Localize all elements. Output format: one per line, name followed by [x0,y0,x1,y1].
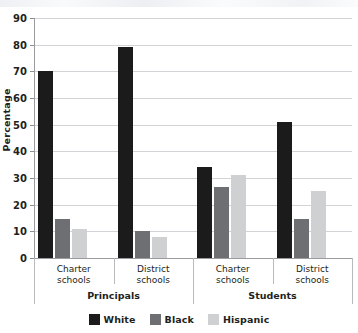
bar [38,71,53,258]
gridline [34,205,352,206]
gridline [34,178,352,179]
gridline [34,98,352,99]
bar [55,219,70,258]
group-separator [352,258,353,304]
gridline [34,18,352,19]
legend-swatch [89,314,100,325]
x-group-label: Students [193,290,352,301]
x-tick-label: District schools [273,264,353,285]
x-tick-label: Charter schools [34,264,114,285]
legend-item: White [89,314,136,325]
y-tick-label: 10 [13,226,27,237]
gridline [34,45,352,46]
bar [277,122,292,258]
y-tick-label: 60 [13,93,27,104]
legend-label: Black [165,314,194,325]
chart-legend: WhiteBlackHispanic [0,314,358,325]
bar [118,47,133,258]
legend-label: Hispanic [223,314,270,325]
bar [214,187,229,258]
y-tick-label: 0 [20,253,27,264]
bar [152,237,167,258]
bar [231,175,246,258]
y-tick-label: 70 [13,66,27,77]
y-tick-label: 40 [13,146,27,157]
x-tick-label: Charter schools [193,264,273,285]
gridline [34,151,352,152]
y-tick-label: 30 [13,173,27,184]
bar [311,191,326,258]
cropped-header-artifact [0,0,358,7]
bar [135,231,150,258]
bar [72,229,87,258]
x-tick-label: District schools [114,264,194,285]
legend-item: Black [150,314,194,325]
gridline [34,71,352,72]
y-tick-label: 80 [13,39,27,50]
gridline [34,125,352,126]
chart-plot-area: 0102030405060708090 [34,18,352,258]
y-axis-title: Percentage [1,0,13,240]
bar [197,167,212,258]
bar [294,219,309,258]
y-axis-line [34,18,35,258]
y-tick-label: 20 [13,199,27,210]
x-group-label: Principals [34,290,193,301]
y-tick-label: 50 [13,119,27,130]
legend-label: White [104,314,136,325]
legend-item: Hispanic [208,314,270,325]
legend-swatch [208,314,219,325]
y-tick-label: 90 [13,13,27,24]
legend-swatch [150,314,161,325]
